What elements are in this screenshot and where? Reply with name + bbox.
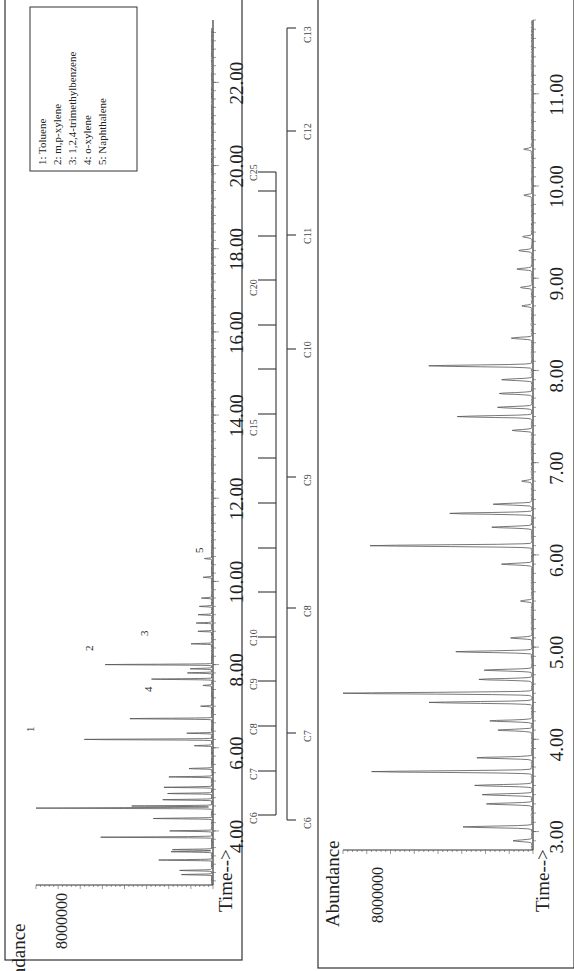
peak-label-1: 1 bbox=[24, 727, 36, 733]
panel-a-ytick-label: 8000000 bbox=[53, 893, 70, 949]
ladder-b-C13: C13 bbox=[302, 26, 313, 43]
time-tick-20: 20.00 bbox=[226, 145, 247, 188]
time-tick-12: 12.00 bbox=[226, 477, 247, 520]
ladder-a-C10: C10 bbox=[248, 629, 259, 646]
time-tick-6: 6.00 bbox=[546, 544, 567, 577]
peak-label-3: 3 bbox=[138, 630, 150, 636]
ladder-a-C25: C25 bbox=[248, 164, 259, 181]
legend-item-1: 1: Toluene bbox=[36, 119, 48, 165]
time-tick-11: 11.00 bbox=[546, 74, 567, 116]
time-tick-22: 22.00 bbox=[226, 62, 247, 105]
time-tick-10: 10.00 bbox=[226, 561, 247, 604]
peak-label-5: 5 bbox=[193, 547, 205, 553]
time-tick-18: 18.00 bbox=[226, 228, 247, 271]
ladder-b-C11: C11 bbox=[302, 228, 313, 244]
panel-b-time-tick-labels: 3.00 4.00 5.00 6.00 7.00 8.00 9.00 10.00… bbox=[546, 74, 567, 854]
chromatogram-panel-b: Abundance 8000000 Time--> 3.00 4.00 5.00… bbox=[318, 0, 574, 968]
panel-a-abundance-ticks bbox=[36, 885, 213, 889]
chromatogram-panel-a: 1 2 3 4 5 Abundance 8000000 Time--> 4.00… bbox=[5, 0, 247, 971]
ladder-b-C7: C7 bbox=[302, 730, 313, 742]
panel-b-chromatogram-trace bbox=[343, 21, 532, 851]
legend-item-3: 3: 1,2,4-trimethylbenzene bbox=[66, 52, 78, 165]
carbon-ladder-a: C6 C7 C8 C9 C10 C15 C20 C25 bbox=[248, 164, 276, 824]
ladder-b-C6: C6 bbox=[302, 817, 313, 829]
ladder-a-C8: C8 bbox=[248, 723, 259, 735]
panel-a-time-tick-labels: 4.00 6.00 8.00 10.00 12.00 14.00 16.00 1… bbox=[226, 62, 247, 853]
figure: 1 2 3 4 5 Abundance 8000000 Time--> 4.00… bbox=[0, 0, 574, 971]
panel-b-ylabel: Abundance bbox=[322, 840, 343, 927]
time-tick-7: 7.00 bbox=[546, 451, 567, 484]
time-tick-6: 6.00 bbox=[226, 737, 247, 770]
peak-label-4: 4 bbox=[142, 686, 154, 692]
peak-label-2: 2 bbox=[83, 646, 95, 652]
panel-b-ytick-label: 8000000 bbox=[369, 867, 386, 923]
legend: 1: Toluene 2: m,p-xylene 3: 1,2,4-trimet… bbox=[30, 7, 137, 171]
panel-a-time-ticks bbox=[213, 32, 219, 880]
time-tick-3: 3.00 bbox=[546, 820, 567, 853]
ladder-a-C9: C9 bbox=[248, 678, 259, 690]
panel-a-xlabel: Time--> bbox=[215, 849, 236, 912]
ladder-b-C10: C10 bbox=[302, 341, 313, 358]
time-tick-10: 10.00 bbox=[546, 165, 567, 208]
legend-item-4: 4: o-xylene bbox=[81, 115, 93, 165]
ladder-b-C8: C8 bbox=[302, 605, 313, 617]
time-tick-4: 4.00 bbox=[546, 728, 567, 761]
panel-b-abundance-ticks bbox=[343, 850, 533, 854]
panel-b-frame bbox=[318, 0, 574, 968]
legend-item-2: 2: m,p-xylene bbox=[51, 104, 63, 165]
ladder-b-C9: C9 bbox=[302, 474, 313, 486]
time-tick-8: 8.00 bbox=[226, 653, 247, 686]
legend-item-5: 5: Naphthalene bbox=[96, 98, 108, 165]
ladder-a-C15: C15 bbox=[248, 419, 259, 436]
time-tick-8: 8.00 bbox=[546, 359, 567, 392]
time-tick-9: 9.00 bbox=[546, 267, 567, 300]
time-tick-16: 16.00 bbox=[226, 311, 247, 354]
time-tick-4: 4.00 bbox=[226, 820, 247, 853]
ladder-a-C6: C6 bbox=[248, 812, 259, 824]
ladder-a-C20: C20 bbox=[248, 279, 259, 296]
panel-a-ylabel: Abundance bbox=[8, 923, 29, 971]
ladder-a-C7: C7 bbox=[248, 768, 259, 780]
time-tick-5: 5.00 bbox=[546, 636, 567, 669]
ladder-b-C12: C12 bbox=[302, 123, 313, 140]
panel-b-time-ticks bbox=[533, 20, 539, 841]
carbon-ladder-b: C6 C7 C8 C9 C10 C11 C12 C13 bbox=[287, 26, 313, 829]
time-tick-14: 14.00 bbox=[226, 394, 247, 437]
panel-b-xlabel: Time--> bbox=[532, 849, 553, 912]
